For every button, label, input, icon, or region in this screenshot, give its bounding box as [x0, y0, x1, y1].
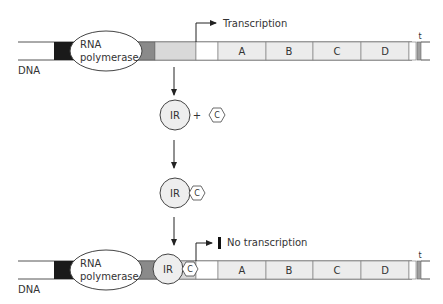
rna-polymerase: RNA polymerase [70, 250, 142, 290]
gene-label: C [334, 265, 341, 276]
complex-repressor-label: IR [170, 188, 180, 199]
dna-label: DNA [18, 65, 40, 76]
repressor-inducer-complex: IR C [160, 178, 205, 208]
plus-sign: + [193, 110, 201, 121]
transcription-arrow [196, 23, 216, 42]
transcription-label: Transcription [222, 18, 287, 29]
gene-C: C [313, 42, 361, 60]
polymerase-label-line1: RNA [80, 258, 101, 269]
gene-label: D [381, 46, 389, 57]
repressor-label: IR [170, 110, 180, 121]
polymerase-label-line2: polymerase [80, 52, 139, 63]
regulation-steps: IR + C IR C [160, 67, 225, 245]
dna-label: DNA [18, 284, 40, 295]
bound-repressor-label: IR [163, 264, 173, 275]
gene-B: B [266, 261, 313, 279]
gene-D: D [361, 261, 409, 279]
gene-label: D [381, 265, 389, 276]
block-bar [218, 237, 221, 249]
gene-label: B [286, 265, 293, 276]
gene-D: D [361, 42, 409, 60]
inducer-label: C [214, 111, 220, 120]
top-dna-strand: A B C D t RNA polymerase DNA Transcripti… [18, 18, 430, 76]
gene-B: B [266, 42, 313, 60]
bottom-dna-strand: A B C D t RNA polymerase IR C [18, 237, 430, 295]
polymerase-label-line1: RNA [80, 39, 101, 50]
blocked-transcription-arrow [196, 243, 212, 261]
gene-A: A [218, 261, 266, 279]
inducible-repressor: IR [160, 100, 190, 130]
polymerase-label-line2: polymerase [80, 271, 139, 282]
regulatory-region [155, 42, 196, 60]
operon-regulation-diagram: A B C D t RNA polymerase DNA Transcripti… [0, 0, 443, 304]
gene-label: B [286, 46, 293, 57]
bound-inducer-label: C [187, 265, 193, 274]
inducer-molecule: C [209, 108, 225, 122]
terminator [417, 261, 421, 279]
gene-label: C [334, 46, 341, 57]
gene-C: C [313, 261, 361, 279]
spacer-region [196, 42, 218, 60]
spacer-region [196, 261, 218, 279]
complex-inducer-label: C [194, 189, 200, 198]
gene-label: A [239, 265, 246, 276]
rna-polymerase: RNA polymerase [70, 31, 142, 71]
gene-label: A [239, 46, 246, 57]
terminator [417, 42, 421, 60]
terminator-label: t [418, 251, 421, 260]
terminator-label: t [418, 32, 421, 41]
gene-A: A [218, 42, 266, 60]
no-transcription-label: No transcription [227, 237, 307, 248]
